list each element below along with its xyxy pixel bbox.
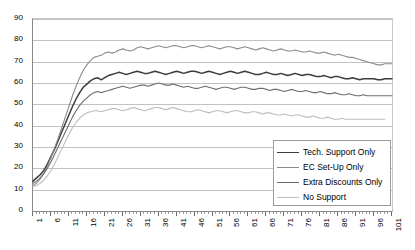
y-tick-label: 20	[0, 163, 28, 171]
x-tick-minor	[352, 212, 353, 214]
x-tick-minor	[341, 212, 342, 214]
x-tick-minor	[280, 212, 281, 214]
legend-item[interactable]: No Support	[277, 190, 387, 205]
x-tick-minor	[97, 212, 98, 214]
x-tick-label: 76	[305, 218, 313, 227]
x-tick-minor	[143, 212, 144, 214]
x-tick-minor	[39, 212, 40, 214]
x-tick-label: 61	[251, 218, 259, 227]
legend-line-swatch-icon	[277, 197, 299, 198]
x-tick-minor	[294, 212, 295, 214]
x-tick-major	[337, 212, 338, 216]
x-tick-minor	[308, 212, 309, 214]
x-tick-minor	[118, 212, 119, 214]
x-tick-minor	[150, 212, 151, 214]
x-tick-minor	[312, 212, 313, 214]
x-tick-major	[247, 212, 248, 216]
x-tick-minor	[330, 212, 331, 214]
x-tick-major	[319, 212, 320, 216]
x-tick-minor	[46, 212, 47, 214]
legend-item-label: Extra Discounts Only	[303, 178, 382, 187]
x-tick-major	[68, 212, 69, 216]
x-tick-minor	[380, 212, 381, 214]
x-tick-minor	[190, 212, 191, 214]
legend-line-swatch-icon	[277, 152, 299, 153]
y-tick-label: 0	[0, 206, 28, 214]
x-tick-label: 6	[54, 218, 62, 222]
legend-line-swatch-icon	[277, 167, 299, 168]
x-tick-minor	[344, 212, 345, 214]
x-tick-major	[140, 212, 141, 216]
x-tick-label: 81	[323, 218, 331, 227]
x-tick-minor	[107, 212, 108, 214]
x-tick-label: 31	[144, 218, 152, 227]
y-tick-label: 80	[0, 35, 28, 43]
x-tick-major	[50, 212, 51, 216]
x-tick-minor	[316, 212, 317, 214]
x-tick-major	[391, 212, 392, 216]
x-tick-minor	[54, 212, 55, 214]
x-tick-minor	[93, 212, 94, 214]
x-tick-minor	[323, 212, 324, 214]
x-tick-label: 1	[36, 218, 44, 222]
x-tick-minor	[258, 212, 259, 214]
x-tick-minor	[197, 212, 198, 214]
x-tick-minor	[61, 212, 62, 214]
x-tick-minor	[172, 212, 173, 214]
x-tick-major	[265, 212, 266, 216]
x-tick-minor	[326, 212, 327, 214]
x-tick-major	[301, 212, 302, 216]
y-tick-label: 50	[0, 99, 28, 107]
y-tick-label: 30	[0, 142, 28, 150]
x-tick-minor	[359, 212, 360, 214]
y-tick-label: 10	[0, 185, 28, 193]
x-tick-minor	[251, 212, 252, 214]
x-tick-minor	[201, 212, 202, 214]
x-tick-minor	[204, 212, 205, 214]
x-tick-minor	[226, 212, 227, 214]
x-axis: 1611162126313641465156616671768186919610…	[32, 212, 393, 250]
x-tick-minor	[43, 212, 44, 214]
x-tick-label: 101	[395, 218, 403, 231]
x-tick-major	[176, 212, 177, 216]
x-tick-minor	[384, 212, 385, 214]
legend-item[interactable]: EC Set-Up Only	[277, 160, 387, 175]
legend-item[interactable]: Extra Discounts Only	[277, 175, 387, 190]
y-tick-label: 90	[0, 14, 28, 22]
x-tick-major	[194, 212, 195, 216]
x-tick-minor	[362, 212, 363, 214]
x-tick-major	[122, 212, 123, 216]
x-tick-minor	[71, 212, 72, 214]
x-tick-minor	[237, 212, 238, 214]
y-tick-label: 70	[0, 57, 28, 65]
x-tick-minor	[64, 212, 65, 214]
x-tick-major	[373, 212, 374, 216]
x-tick-minor	[125, 212, 126, 214]
x-tick-label: 56	[233, 218, 241, 227]
x-tick-major	[104, 212, 105, 216]
x-tick-label: 96	[377, 218, 385, 227]
x-tick-minor	[82, 212, 83, 214]
x-tick-minor	[273, 212, 274, 214]
x-tick-minor	[255, 212, 256, 214]
x-tick-minor	[161, 212, 162, 214]
x-tick-minor	[219, 212, 220, 214]
x-tick-minor	[287, 212, 288, 214]
legend-item[interactable]: Tech. Support Only	[277, 145, 387, 160]
x-tick-minor	[215, 212, 216, 214]
x-tick-minor	[165, 212, 166, 214]
x-tick-label: 26	[126, 218, 134, 227]
y-tick-label: 40	[0, 121, 28, 129]
chart-legend: Tech. Support OnlyEC Set-Up OnlyExtra Di…	[273, 140, 391, 206]
x-tick-minor	[276, 212, 277, 214]
x-tick-label: 21	[108, 218, 116, 227]
x-tick-minor	[244, 212, 245, 214]
x-tick-minor	[136, 212, 137, 214]
x-tick-major	[32, 212, 33, 216]
x-tick-minor	[377, 212, 378, 214]
x-tick-minor	[129, 212, 130, 214]
x-tick-minor	[233, 212, 234, 214]
x-tick-minor	[57, 212, 58, 214]
y-axis: 9080706050403020100	[0, 0, 28, 250]
x-tick-label: 41	[180, 218, 188, 227]
